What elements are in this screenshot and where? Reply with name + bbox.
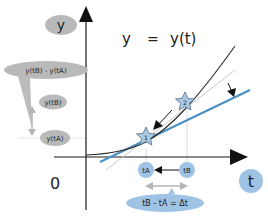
title-lhs: y — [122, 30, 131, 48]
x-axis-arrow-icon — [230, 149, 248, 165]
delta-pointer — [168, 188, 175, 194]
point-1-label: 1 — [144, 134, 148, 141]
rotate-arrow-icon — [227, 88, 236, 97]
y-axis-label: y — [57, 17, 65, 33]
y-axis-arrow-icon — [79, 6, 93, 22]
secant-line — [106, 70, 235, 170]
title-rhs: y(t) — [170, 30, 196, 48]
curve-y-of-t — [86, 46, 235, 155]
point-2-star-icon: 2 — [176, 92, 195, 110]
y-delta-arrow-down-icon — [28, 129, 36, 136]
t-approach-arrow-icon — [154, 166, 162, 174]
t-axis-label: t — [248, 172, 254, 191]
tangent-line — [100, 90, 250, 162]
point-2-label: 2 — [183, 99, 187, 106]
approach-arrow-line — [158, 110, 172, 125]
derivative-diagram: 1 2 y = y(t) y y(tB) - y(tA) y(tB) y(tA)… — [0, 0, 268, 221]
yB-label: y(tB) — [44, 99, 61, 107]
difference-pointer — [18, 76, 32, 128]
origin-label: 0 — [50, 174, 60, 193]
t-delta-arrow-left-icon — [145, 182, 153, 190]
title-eq: = — [147, 31, 159, 47]
tB-label: tB — [183, 167, 191, 175]
tA-label: tA — [142, 167, 150, 175]
yA-label: y(tA) — [46, 135, 63, 143]
delta-label: tB - tA = Δt — [142, 199, 188, 208]
difference-label: y(tB) - y(tA) — [25, 67, 67, 75]
t-delta-arrow-right-icon — [180, 182, 188, 190]
